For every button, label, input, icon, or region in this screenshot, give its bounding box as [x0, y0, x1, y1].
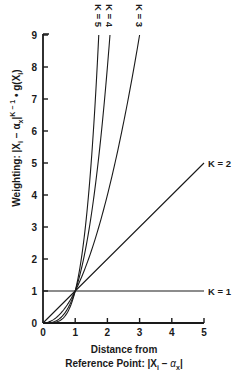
y-tick-label: 7	[31, 94, 37, 105]
x-tick-label: 2	[105, 327, 111, 338]
x-axis-title-line2: Reference Point: |Xi − αx|	[65, 358, 183, 371]
x-tick-label: 5	[201, 327, 207, 338]
series-label-k1: K = 1	[208, 286, 232, 297]
x-tick-label: 3	[137, 327, 143, 338]
y-tick-label: 3	[31, 222, 37, 233]
y-tick-label: 6	[31, 126, 37, 137]
series-label-k4: K = 4	[104, 4, 115, 28]
y-tick-label: 8	[31, 62, 37, 73]
series-line-k2	[43, 163, 204, 323]
series-label-k3: K = 3	[134, 4, 145, 27]
series-label-k5: K = 5	[93, 4, 104, 28]
series-line-k5	[43, 35, 99, 323]
y-tick-label: 4	[31, 190, 37, 201]
chart-canvas: 0123450123456789 K = 1K = 2K = 3K = 4K =…	[0, 0, 239, 380]
plot-area	[43, 35, 204, 323]
x-tick-label: 1	[72, 327, 78, 338]
y-tick-label: 2	[31, 254, 37, 265]
x-tick-label: 4	[169, 327, 175, 338]
axes: 0123450123456789	[31, 30, 207, 339]
y-tick-label: 1	[31, 286, 37, 297]
series-line-k4	[43, 35, 110, 323]
x-tick-label: 0	[40, 327, 46, 338]
y-axis-title: Weighting: |Xi − αx|K − 1 • g(Xi)	[9, 69, 24, 206]
y-tick-label: 9	[31, 30, 37, 41]
x-axis-title-line1: Distance from	[91, 344, 158, 355]
y-tick-label: 5	[31, 158, 37, 169]
series-label-k2: K = 2	[208, 158, 231, 169]
y-tick-label: 0	[31, 318, 37, 329]
series-line-k3	[43, 35, 140, 323]
